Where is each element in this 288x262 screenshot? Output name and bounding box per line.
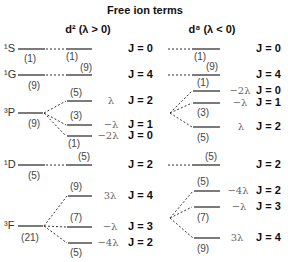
j-label: J = 2 (256, 120, 281, 132)
j-label: J = 0 (256, 42, 281, 54)
level-degeneracy: (3) (70, 110, 82, 121)
j-label: J = 4 (128, 68, 154, 80)
level-degeneracy: (5) (205, 151, 217, 162)
level-energy: 3λ (231, 232, 244, 243)
level-degeneracy: (1) (68, 138, 80, 149)
connector (170, 91, 192, 113)
level-degeneracy: (7) (70, 212, 82, 223)
level-energy: −λ (233, 97, 248, 108)
level-degeneracy: (5) (78, 151, 90, 162)
level-degeneracy: (1) (197, 77, 209, 88)
level-energy: −2λ (229, 85, 251, 96)
j-label: J = 1 (256, 96, 281, 108)
connector (170, 113, 192, 127)
j-label: J = 2 (256, 184, 281, 196)
level-energy: −4λ (97, 237, 119, 248)
connector (44, 226, 67, 243)
j-label: J = 4 (256, 68, 282, 80)
j-label: J = 3 (128, 220, 153, 232)
connector (170, 191, 193, 218)
j-label: J = 0 (256, 84, 281, 96)
j-label: J = 2 (128, 236, 153, 248)
connector (170, 103, 192, 113)
level-degeneracy: (5) (70, 87, 82, 98)
term-deg-1D: (5) (28, 170, 40, 181)
term-diagram: Free ion terms d² (λ > 0) d⁸ (λ < 0) ¹S … (0, 0, 288, 262)
level-degeneracy: (3) (197, 107, 209, 118)
term-label-1D: ¹D (4, 158, 16, 170)
term-label-3F: ³F (4, 219, 15, 231)
level-energy: −λ (103, 221, 118, 232)
term-deg-1S: (1) (24, 53, 36, 64)
d8-levels: (1) J = 0 (9) J = 4 (1) −2λ J = 0 (3) −λ… (168, 42, 282, 254)
free-ion-terms: ¹S (1) ¹G (9) ³P (9) ¹D (5) ³F (21) (4, 42, 45, 243)
connector (170, 207, 192, 218)
connector (44, 196, 67, 226)
level-energy: λ (108, 95, 115, 106)
level-degeneracy: (9) (70, 181, 82, 192)
j-label: J = 2 (128, 94, 153, 106)
connector (44, 113, 66, 136)
term-label-3P: ³P (4, 106, 15, 118)
level-degeneracy: (5) (70, 247, 82, 258)
level-energy: −λ (232, 201, 247, 212)
connector (44, 226, 66, 227)
level-degeneracy: (9) (197, 243, 209, 254)
term-label-1G: ¹G (4, 68, 16, 80)
j-label: J = 2 (128, 158, 153, 170)
level-degeneracy: (1) (66, 51, 78, 62)
level-degeneracy: (9) (80, 62, 92, 73)
level-energy: 3λ (104, 190, 117, 201)
level-degeneracy: (7) (197, 212, 209, 223)
header-d2: d² (λ > 0) (65, 23, 111, 35)
j-label: J = 0 (128, 129, 153, 141)
level-energy: −λ (104, 119, 119, 130)
j-label: J = 2 (256, 158, 281, 170)
term-deg-3P: (9) (28, 118, 40, 129)
level-energy: −4λ (227, 185, 249, 196)
connector (170, 218, 193, 238)
j-label: J = 3 (256, 200, 281, 212)
level-degeneracy: (5) (197, 176, 209, 187)
header-d8: d⁸ (λ < 0) (188, 23, 235, 35)
connector (44, 113, 66, 125)
diagram-title: Free ion terms (107, 4, 183, 16)
j-label: J = 0 (128, 42, 153, 54)
j-label: J = 4 (128, 189, 154, 201)
level-energy: −2λ (97, 130, 119, 141)
level-degeneracy: (9) (206, 61, 218, 72)
term-deg-1G: (9) (28, 80, 40, 91)
term-label-1S: ¹S (4, 42, 15, 54)
j-label: J = 4 (256, 231, 282, 243)
level-degeneracy: (5) (197, 132, 209, 143)
d2-levels: (1) J = 0 (9) J = 4 (5) λ J = 2 (3) −λ J… (44, 42, 154, 258)
term-deg-3F: (21) (21, 232, 39, 243)
connector (44, 101, 66, 113)
level-energy: λ (238, 121, 245, 132)
level-degeneracy: (1) (194, 51, 206, 62)
